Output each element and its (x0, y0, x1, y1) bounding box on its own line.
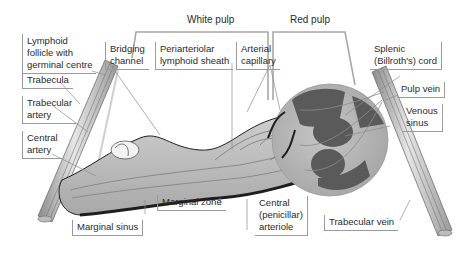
label-central-artery: Central artery (22, 131, 62, 159)
label-venous-sinus: Venous sinus (402, 104, 443, 132)
label-marginal-sinus: Marginal sinus (72, 220, 143, 236)
label-pulp-vein: Pulp vein (397, 82, 445, 98)
label-periarteriolar-sheath: Periarteriolar lymphoid sheath (155, 42, 233, 70)
label-splenic-cord: Splenic (Billroth's) cord (370, 42, 442, 70)
label-arterial-capillary: Arterial capillary (236, 42, 280, 70)
label-trabecular-vein: Trabecular vein (324, 215, 398, 231)
label-marginal-zone: Marginal zone (157, 195, 226, 211)
label-central-arteriole: Central (penicillar) arteriole (255, 196, 308, 236)
white-pulp-header: White pulp (187, 14, 234, 25)
red-pulp-header: Red pulp (290, 14, 330, 25)
label-trabecular-artery: Trabecular artery (22, 96, 76, 124)
label-lymphoid-follicle: Lymphoid follicle with germinal centre (22, 34, 96, 74)
label-bridging-channel: Bridging channel (105, 42, 149, 70)
label-trabecula: Trabecula (22, 73, 73, 89)
